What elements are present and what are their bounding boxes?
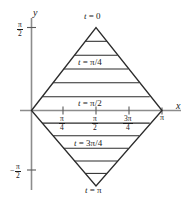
fraction-pi-over-2-x: π 2 [92,115,98,131]
fraction-pi-over-2: π 2 [17,21,23,37]
fraction-pi-over-2-neg: π 2 [15,163,21,179]
y-tick-label-pi-over-2: π 2 [17,21,23,37]
t-label-pi: t = π [85,186,102,195]
y-axis-label: y [33,8,37,18]
parametric-diamond-figure: y x π 2 − π 2 π 4 π 2 3π 4 [0,0,193,197]
x-axis-label: x [176,101,180,111]
x-tick-label-3pi-over-4: 3π 4 [123,115,133,131]
x-tick-label-pi: π [160,114,164,122]
y-tick-label-neg-pi-over-2: − π 2 [10,163,21,179]
t-label-3pi-over-4: t = 3π/4 [74,139,102,148]
fraction-3pi-over-4: 3π 4 [123,115,133,131]
t-label-pi-over-2: t = π/2 [78,99,102,108]
t-label-pi-over-4: t = π/4 [78,58,102,67]
t-label-0: t = 0 [84,12,101,21]
x-tick-label-pi-over-2: π 2 [92,115,98,131]
x-tick-label-pi-over-4: π 4 [59,115,65,131]
fraction-pi-over-4: π 4 [59,115,65,131]
negative-fraction-group: − π 2 [10,163,21,179]
